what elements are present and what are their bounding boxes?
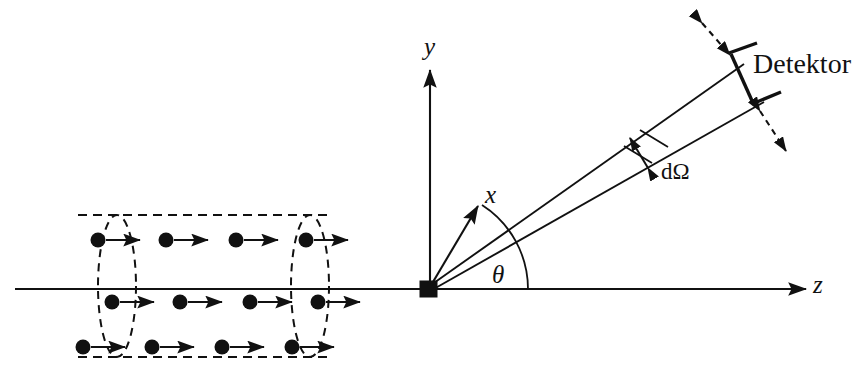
y-axis-label: y: [424, 34, 435, 59]
scattering-cone: [431, 64, 764, 290]
beam-particle: [145, 340, 160, 355]
beam-particle: [243, 295, 258, 310]
theta-angle: [482, 205, 528, 289]
beam-particle: [159, 233, 174, 248]
beam-particle: [173, 295, 188, 310]
beam-particle: [229, 233, 244, 248]
domega-double-arrow: [630, 138, 648, 168]
detector-motion-arrow-upper: [702, 23, 730, 55]
particle-row-bottom: [76, 340, 335, 355]
beam-particle: [215, 340, 230, 355]
x-axis: [430, 206, 478, 287]
detector-lower-bar: [752, 92, 781, 104]
beam-particle: [285, 340, 300, 355]
z-axis-label: z: [813, 272, 823, 297]
cone-lower-edge: [432, 102, 764, 290]
beam-particle: [311, 295, 326, 310]
detector-label: Detektor: [753, 50, 851, 78]
theta-angle-label: θ: [492, 262, 504, 287]
beam-particle: [76, 340, 91, 355]
solid-angle-label: dΩ: [661, 160, 690, 183]
beam-particle: [299, 233, 314, 248]
domega-tick-upper: [624, 146, 652, 163]
domega-tick-lower: [640, 130, 668, 147]
detector-spine: [731, 54, 753, 103]
x-axis-line: [430, 206, 478, 287]
beam-cylinder: [78, 215, 330, 357]
beam-particle: [91, 233, 106, 248]
scattering-diagram: y x z θ dΩ Detektor: [0, 0, 866, 376]
particle-row-middle: [105, 295, 361, 310]
detector-motion-arrow-lower: [760, 111, 786, 151]
cone-upper-edge: [431, 64, 744, 285]
x-axis-label: x: [485, 182, 496, 207]
theta-arc: [482, 205, 528, 289]
beam-particle: [105, 295, 120, 310]
